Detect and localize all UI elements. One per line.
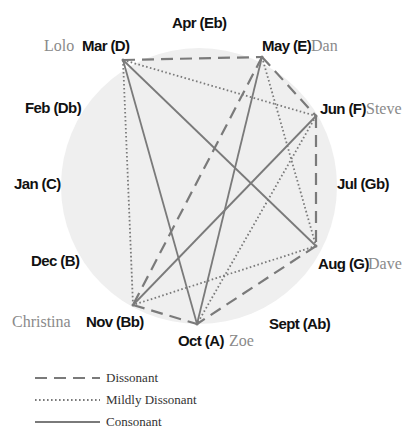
month-label-oct: Oct (A) [178,332,224,349]
person-label-zoe: Zoe [229,332,254,349]
node-jun [315,115,318,118]
person-label-christina: Christina [12,313,71,330]
person-label-steve: Steve [366,100,402,117]
legend-label-dissonant: Dissonant [106,370,158,385]
month-label-mar: Mar (D) [82,37,130,54]
node-may [261,56,264,59]
month-label-may: May (E) [262,37,312,54]
node-aug [315,245,318,248]
person-label-dave: Dave [368,255,402,272]
month-label-feb: Feb (Db) [25,99,82,116]
legend-label-mild: Mildly Dissonant [106,392,197,407]
month-label-nov: Nov (Bb) [86,313,144,330]
legend-label-consonant: Consonant [106,414,162,429]
month-label-jan: Jan (C) [14,175,61,192]
month-label-jun: Jun (F) [320,100,366,117]
node-oct [196,323,199,326]
person-label-lolo: Lolo [44,37,74,54]
month-label-aug: Aug (G) [318,255,369,272]
month-label-jul: Jul (Gb) [337,175,389,192]
background-circle [61,48,337,324]
legend: Dissonant Mildly Dissonant Consonant [35,370,197,429]
node-nov [132,304,135,307]
month-label-apr: Apr (Eb) [172,14,227,31]
person-label-dan: Dan [311,37,338,54]
month-label-sep: Sept (Ab) [269,315,331,332]
month-label-dec: Dec (B) [31,252,80,269]
node-mar [122,59,125,62]
birthday-interval-diagram: Apr (Eb) Mar (D) Lolo May (E) Dan Feb (D… [0,0,419,441]
